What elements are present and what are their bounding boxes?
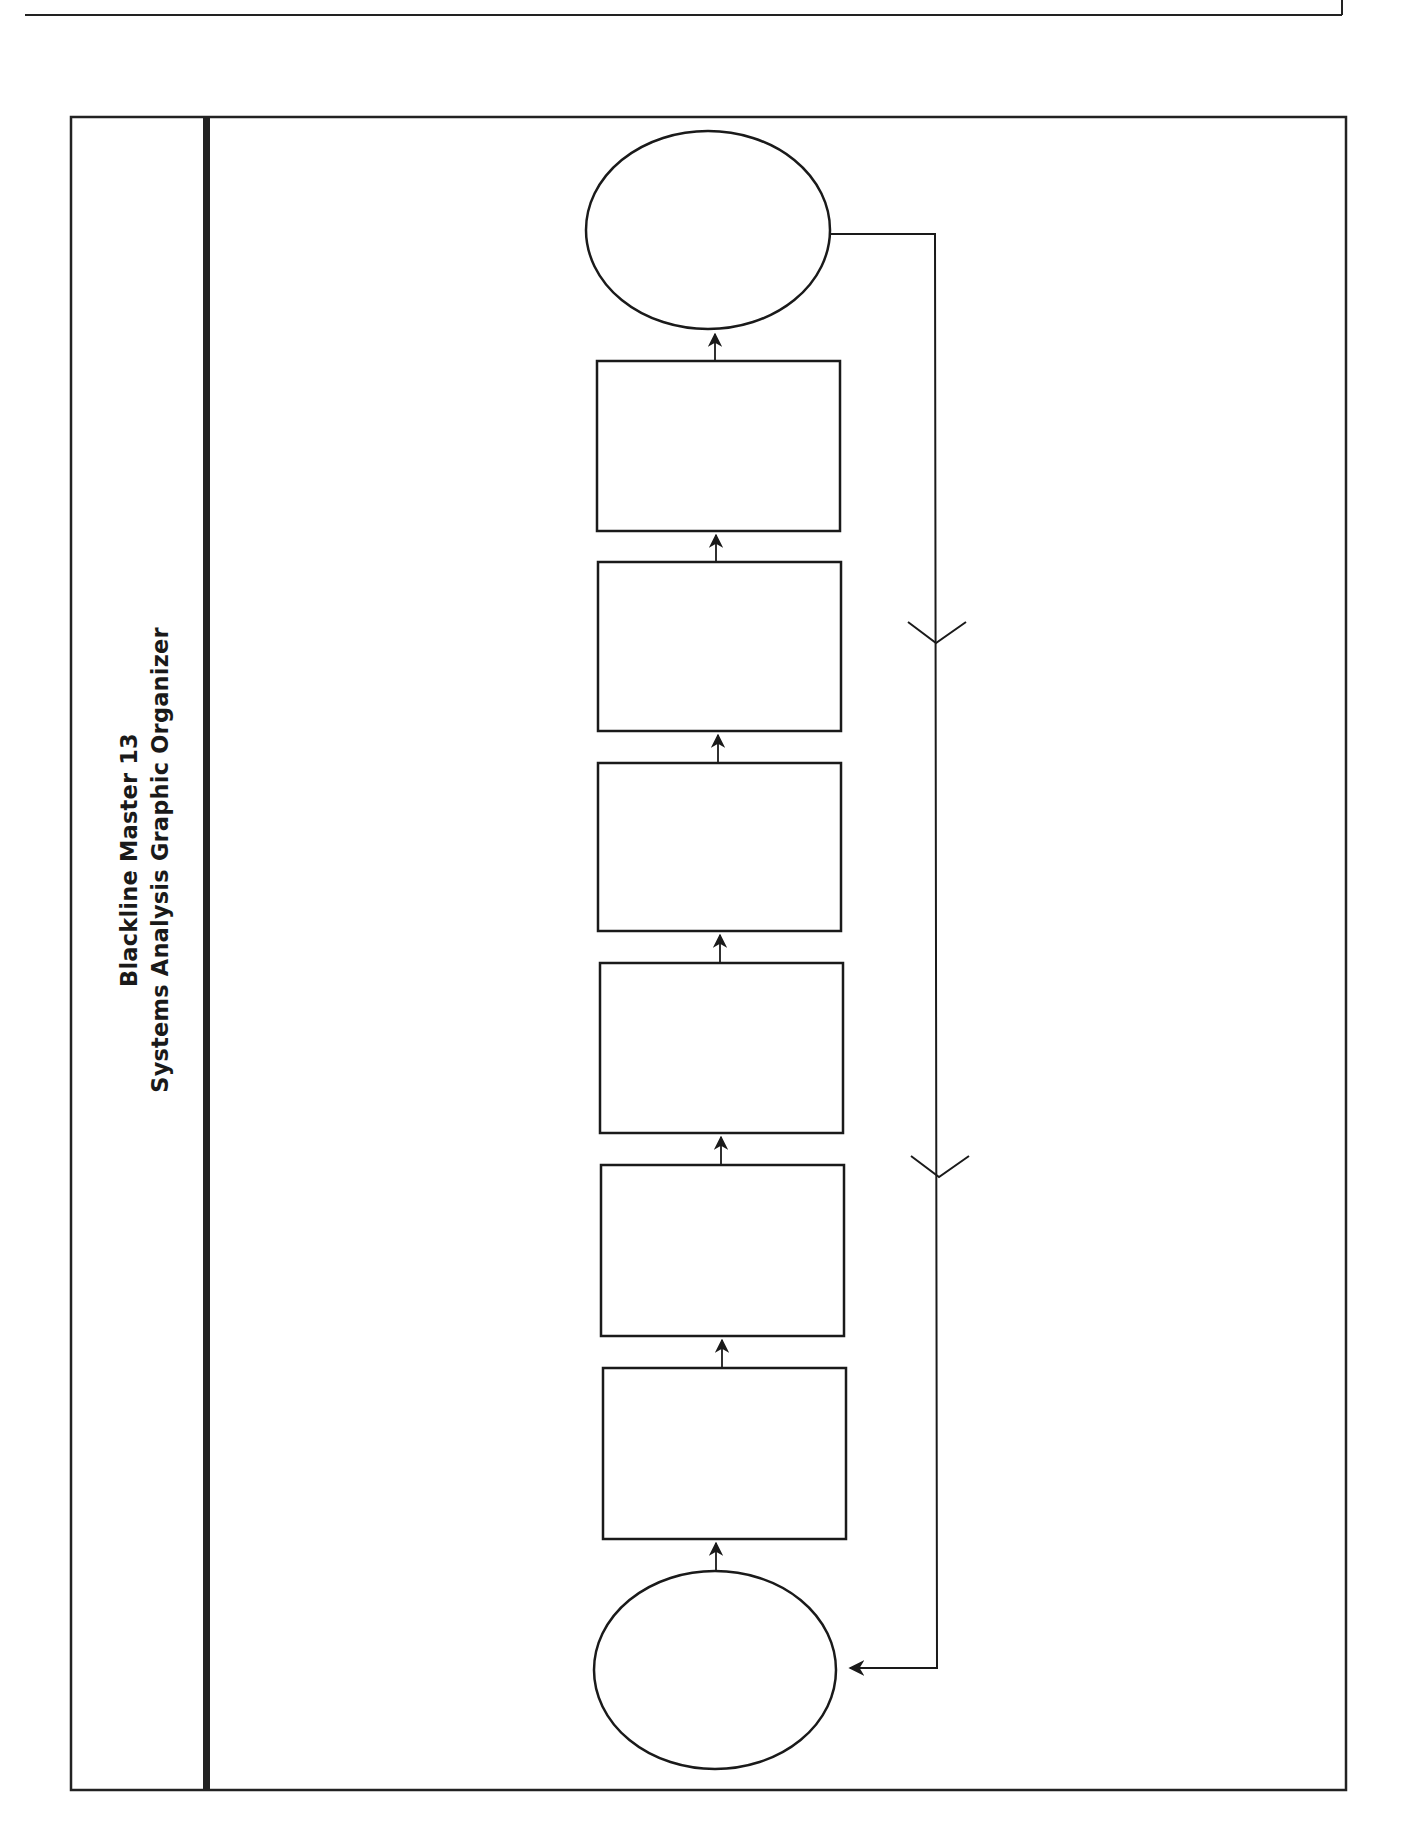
step-box-2[interactable] [601, 1165, 844, 1336]
title-line-1: Blackline Master 13 [114, 627, 145, 1093]
input-ellipse[interactable] [594, 1571, 836, 1769]
step-box-1[interactable] [603, 1368, 846, 1539]
step-box-6[interactable] [597, 361, 840, 531]
chevron-down-icon [908, 622, 966, 643]
title-divider [203, 117, 210, 1790]
output-ellipse[interactable] [586, 131, 830, 329]
step-box-3[interactable] [600, 963, 843, 1133]
chevron-down-icon [911, 1156, 969, 1177]
step-box-4[interactable] [598, 763, 841, 931]
worksheet-canvas [0, 0, 1419, 1841]
worksheet-title: Blackline Master 13 Systems Analysis Gra… [114, 627, 176, 1093]
feedback-loop [830, 234, 969, 1668]
title-line-2: Systems Analysis Graphic Organizer [145, 627, 176, 1093]
header-rule [25, 0, 1342, 15]
step-box-5[interactable] [598, 562, 841, 731]
